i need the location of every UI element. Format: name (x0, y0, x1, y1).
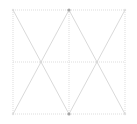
canvas-background (0, 0, 137, 124)
vertex-marker (12, 113, 14, 115)
vertex-marker (67, 112, 70, 115)
vertex-marker (67, 8, 70, 11)
figure-container (0, 0, 137, 124)
vertex-marker (124, 9, 126, 11)
vertex-marker (124, 113, 126, 115)
vertex-marker (40, 61, 42, 63)
vertex-marker (96, 61, 98, 63)
vertex-marker (12, 9, 14, 11)
lattice-diagram (0, 0, 137, 124)
